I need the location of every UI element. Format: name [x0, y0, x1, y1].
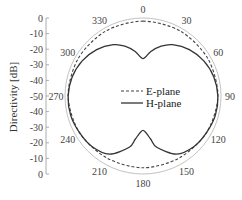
angle-tick-label: 240 [60, 134, 75, 145]
radial-tick-label: -50 [30, 91, 43, 102]
radial-tick-label: -20 [30, 137, 43, 148]
legend-label-h-plane: H-plane [146, 97, 182, 109]
polar-outer-circle [65, 18, 221, 174]
angle-tick-label: 60 [213, 47, 223, 58]
radial-tick-label: -10 [30, 28, 43, 39]
angle-tick-labels: 0306090120150180210240270300330 [49, 4, 236, 189]
radial-tick-label: -30 [30, 59, 43, 70]
angle-tick-label: 150 [179, 166, 194, 177]
angle-tick-label: 0 [141, 4, 146, 15]
angle-tick-label: 180 [136, 178, 151, 189]
radial-tick-label: -40 [30, 106, 43, 117]
radial-tick-label: -40 [30, 75, 43, 86]
outer-circle [65, 18, 221, 174]
angle-tick-label: 330 [92, 15, 107, 26]
angle-tick-label: 120 [211, 134, 226, 145]
radial-tick-label: -20 [30, 44, 43, 55]
radial-tick-label: 0 [38, 13, 43, 24]
radial-tick-label: -10 [30, 153, 43, 164]
y-axis-label: Directivity [dB] [7, 62, 19, 133]
data-series [68, 21, 218, 168]
polar-directivity-chart: 0-10-20-30-40-50-40-30-20-100 Directivit… [0, 0, 242, 200]
radial-tick-label: -30 [30, 122, 43, 133]
angle-tick-label: 300 [60, 47, 75, 58]
series-h-plane [68, 45, 218, 155]
radial-axis: 0-10-20-30-40-50-40-30-20-100 [30, 13, 49, 180]
angle-tick-label: 270 [49, 91, 64, 102]
angle-tick-label: 90 [225, 91, 235, 102]
angle-tick-label: 30 [182, 15, 192, 26]
angle-tick-label: 210 [92, 166, 107, 177]
radial-tick-label: 0 [38, 169, 43, 180]
legend: E-plane H-plane [121, 85, 182, 109]
legend-label-e-plane: E-plane [146, 85, 180, 97]
